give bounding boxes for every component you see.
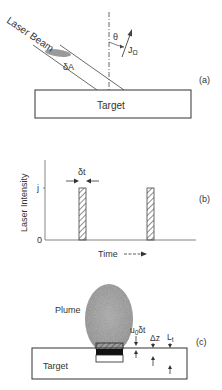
displacement-label: u0δt [130, 325, 146, 336]
lt-label: Lt [167, 332, 174, 343]
y-tick-top: j [36, 183, 39, 193]
beam-label: Laser Beam [5, 15, 56, 54]
x-axis-label: Time [98, 249, 118, 259]
pulse-2 [147, 188, 154, 240]
target-label-c: Target [43, 361, 69, 371]
lt-arrowhead-down [168, 344, 172, 348]
y-axis-label: Laser Intensity [19, 173, 29, 232]
panel-b: Laser Intensity j 0 δt Time (b) [19, 160, 210, 259]
target-label-a: Target [97, 100, 125, 111]
panel-a: Laser Beam δA θ JΩ Target (a) [5, 12, 210, 118]
panel-label-a: (a) [199, 75, 210, 85]
y-tick-zero: 0 [37, 235, 42, 245]
flux-arrowhead [128, 29, 133, 37]
dz-label: Δz [150, 333, 160, 343]
laser-ablation-diagram: Laser Beam δA θ JΩ Target (a) Laser Inte… [0, 0, 222, 390]
panel-c: Plume Target u0δt Δz Lt (c) [32, 284, 207, 379]
ablated-layer-dark [96, 349, 123, 355]
u0dt-arrowhead-down [134, 342, 138, 346]
area-label: δA [63, 62, 74, 72]
angle-label: θ [113, 32, 118, 42]
dz-arrowhead-down [151, 344, 155, 348]
plume-label: Plume [55, 305, 81, 315]
pulse-width-label: δt [78, 167, 86, 177]
time-arrowhead [141, 252, 147, 257]
panel-label-c: (c) [196, 337, 207, 347]
dt-arrowhead-left [74, 179, 79, 184]
angle-arrowhead [120, 45, 124, 49]
pulse-1 [79, 188, 86, 240]
panel-label-b: (b) [199, 194, 210, 204]
heated-layer [96, 355, 123, 362]
ablated-layer-hatched [96, 343, 123, 349]
flux-label: JΩ [128, 45, 138, 56]
dt-arrowhead-right [86, 179, 91, 184]
